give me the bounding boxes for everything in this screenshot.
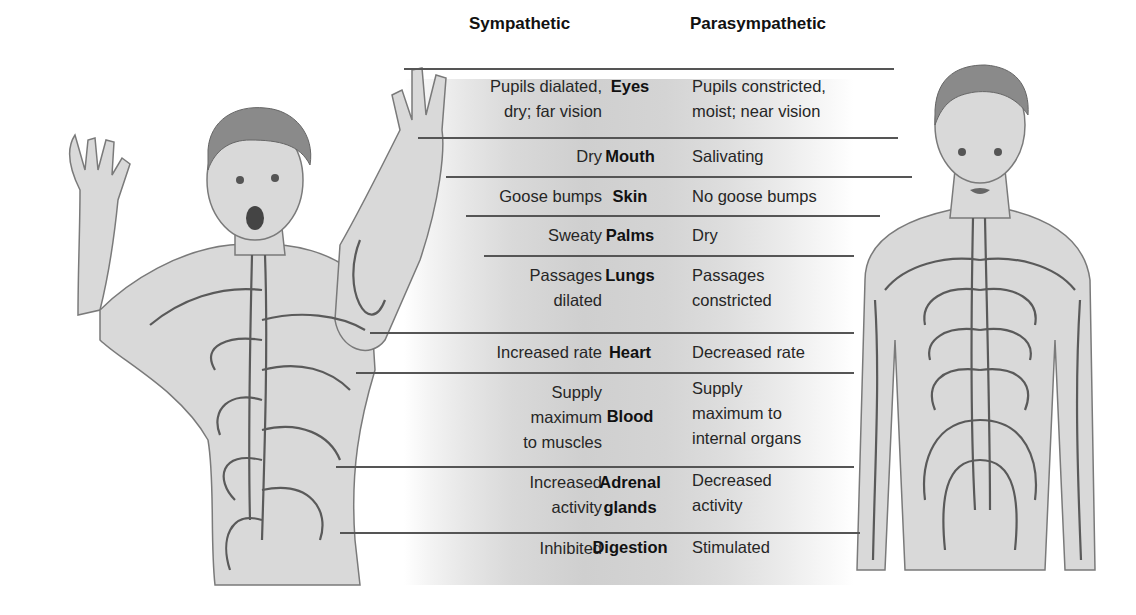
text-line: Decreased (692, 468, 892, 493)
row-divider (446, 176, 912, 178)
eye-right-icon (994, 148, 1002, 156)
palms-sympathetic: Sweaty (412, 223, 602, 248)
text-line: activity (692, 493, 892, 518)
eyes-parasympathetic: Pupils constricted, moist; near vision (692, 74, 892, 124)
text-line: to muscles (412, 430, 602, 455)
header-parasympathetic: Parasympathetic (690, 14, 826, 34)
organ-adrenal-glands: Adrenal glands (580, 470, 680, 520)
eyes-sympathetic: Pupils dialated, dry; far vision (412, 74, 602, 124)
text-line: activity (412, 495, 602, 520)
palms-parasympathetic: Dry (692, 223, 892, 248)
row-divider (340, 532, 860, 534)
organ-skin: Skin (580, 184, 680, 209)
text-line: maximum to (692, 401, 892, 426)
digestion-parasympathetic: Stimulated (692, 535, 892, 560)
text-line: dry; far vision (412, 99, 602, 124)
text-line: Supply (412, 380, 602, 405)
lungs-parasympathetic: Passages constricted (692, 263, 892, 313)
adrenal-sympathetic: Increased activity (412, 470, 602, 520)
text-line: Pupils constricted, (692, 74, 892, 99)
text-line: maximum (412, 405, 602, 430)
eye-right-icon (271, 174, 279, 182)
open-mouth-icon (246, 206, 264, 230)
skin-sympathetic: Goose bumps (412, 184, 602, 209)
organ-lungs: Lungs (580, 263, 680, 288)
digestion-sympathetic: Inhibited (412, 536, 602, 561)
row-divider (404, 68, 894, 70)
organ-digestion: Digestion (580, 535, 680, 560)
text-line: Supply (692, 376, 892, 401)
eye-left-icon (958, 148, 966, 156)
text-line: Passages (692, 263, 892, 288)
lungs-sympathetic: Passages dilated (412, 263, 602, 313)
text-line: Pupils dialated, (412, 74, 602, 99)
heart-parasympathetic: Decreased rate (692, 340, 892, 365)
text-line: moist; near vision (692, 99, 892, 124)
text-line: dilated (412, 288, 602, 313)
heart-sympathetic: Increased rate (412, 340, 602, 365)
text-line: internal organs (692, 426, 892, 451)
mouth-parasympathetic: Salivating (692, 144, 892, 169)
row-divider (484, 255, 854, 257)
blood-sympathetic: Supply maximum to muscles (412, 380, 602, 455)
row-divider (356, 372, 854, 374)
text-line: Increased (412, 470, 602, 495)
adrenal-parasympathetic: Decreased activity (692, 468, 892, 518)
eye-left-icon (236, 176, 244, 184)
text-line: Adrenal (580, 470, 680, 495)
blood-parasympathetic: Supply maximum to internal organs (692, 376, 892, 451)
row-divider (418, 137, 898, 139)
organ-blood: Blood (580, 404, 680, 429)
organ-palms: Palms (580, 223, 680, 248)
skin-parasympathetic: No goose bumps (692, 184, 892, 209)
text-line: constricted (692, 288, 892, 313)
organ-eyes: Eyes (580, 74, 680, 99)
text-line: glands (580, 495, 680, 520)
mouth-sympathetic: Dry (412, 144, 602, 169)
row-divider (466, 215, 880, 217)
organ-mouth: Mouth (580, 144, 680, 169)
row-divider (370, 332, 854, 334)
text-line: Passages (412, 263, 602, 288)
header-sympathetic: Sympathetic (469, 14, 570, 34)
organ-heart: Heart (580, 340, 680, 365)
